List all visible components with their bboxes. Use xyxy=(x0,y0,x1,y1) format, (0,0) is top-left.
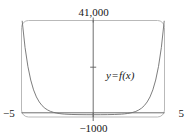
y-max-tick-label: 41,000 xyxy=(0,7,187,18)
x-min-tick-label: −5 xyxy=(3,108,15,119)
y-min-tick-label: −1000 xyxy=(0,123,187,134)
annotation-equals: = xyxy=(111,69,119,81)
graph-figure: 41,000 −1000 −5 5 y=f(x) xyxy=(0,0,187,140)
curve-annotation-label: y=f(x) xyxy=(106,69,134,81)
plot-canvas xyxy=(0,0,187,140)
x-max-tick-label: 5 xyxy=(179,108,185,119)
annotation-fx: f(x) xyxy=(119,69,134,81)
